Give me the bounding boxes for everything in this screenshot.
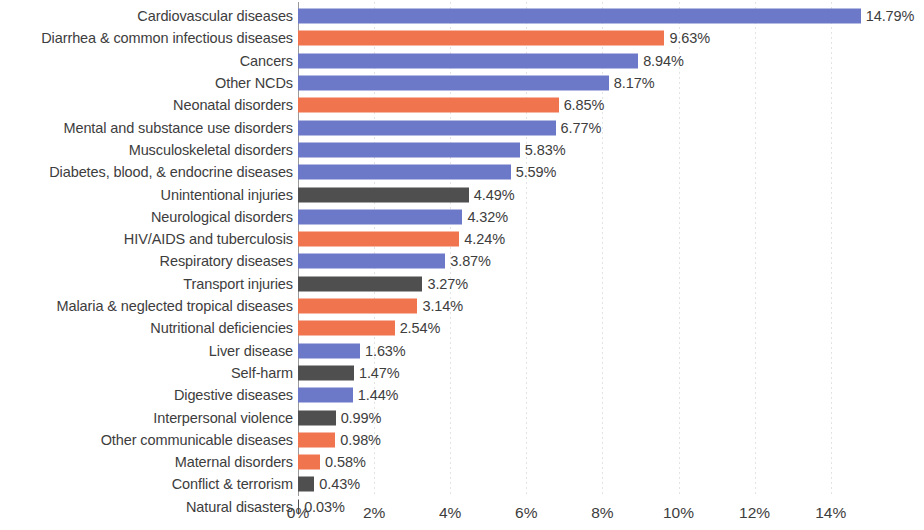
bar-row[interactable]: Diarrhea & common infectious diseases9.6…	[0, 27, 924, 49]
bar-rows: Cardiovascular diseases14.79%Diarrhea & …	[0, 0, 924, 500]
bar[interactable]	[298, 432, 335, 447]
bar[interactable]	[298, 477, 314, 492]
x-tick-label: 2%	[363, 504, 385, 522]
bar-value-label: 4.49%	[474, 187, 515, 203]
bar-row[interactable]: Conflict & terrorism0.43%	[0, 473, 924, 495]
category-label: Transport injuries	[183, 276, 293, 292]
x-tick-label: 14%	[815, 504, 846, 522]
bar[interactable]	[298, 299, 417, 314]
bar-row[interactable]: Cancers8.94%	[0, 50, 924, 72]
bar-value-label: 0.43%	[319, 476, 360, 492]
bar[interactable]	[298, 276, 422, 291]
bar-row[interactable]: Self-harm1.47%	[0, 362, 924, 384]
bar[interactable]	[298, 53, 638, 68]
category-label: Mental and substance use disorders	[63, 120, 293, 136]
bar-value-label: 8.94%	[643, 53, 684, 69]
bar[interactable]	[298, 98, 559, 113]
bar-value-label: 4.32%	[467, 209, 508, 225]
bar-value-label: 1.63%	[365, 343, 406, 359]
bar-row[interactable]: Unintentional injuries4.49%	[0, 183, 924, 205]
bar-value-label: 0.98%	[340, 432, 381, 448]
bar-value-label: 3.14%	[422, 298, 463, 314]
bar-row[interactable]: Maternal disorders0.58%	[0, 451, 924, 473]
bar[interactable]	[298, 410, 336, 425]
bar[interactable]	[298, 254, 445, 269]
bar-row[interactable]: Transport injuries3.27%	[0, 273, 924, 295]
category-label: Malaria & neglected tropical diseases	[57, 298, 294, 314]
category-label: Digestive diseases	[174, 387, 293, 403]
category-label: Diarrhea & common infectious diseases	[41, 30, 293, 46]
bar-row[interactable]: HIV/AIDS and tuberculosis4.24%	[0, 228, 924, 250]
bar-value-label: 6.77%	[561, 120, 602, 136]
category-label: Respiratory diseases	[160, 253, 293, 269]
bar-value-label: 8.17%	[614, 75, 655, 91]
category-label: Interpersonal violence	[153, 410, 293, 426]
bar[interactable]	[298, 365, 354, 380]
category-label: Conflict & terrorism	[172, 476, 293, 492]
bar[interactable]	[298, 187, 469, 202]
category-label: Neurological disorders	[151, 209, 293, 225]
bar[interactable]	[298, 209, 462, 224]
bar-row[interactable]: Liver disease1.63%	[0, 340, 924, 362]
plot-area: Cardiovascular diseases14.79%Diarrhea & …	[0, 0, 924, 500]
bar-value-label: 5.83%	[525, 142, 566, 158]
bar-value-label: 9.63%	[669, 30, 710, 46]
bar[interactable]	[298, 165, 511, 180]
bar-row[interactable]: Digestive diseases1.44%	[0, 384, 924, 406]
category-label: Self-harm	[231, 365, 293, 381]
x-tick-label: 4%	[439, 504, 461, 522]
bar-row[interactable]: Malaria & neglected tropical diseases3.1…	[0, 295, 924, 317]
bar[interactable]	[298, 9, 861, 24]
x-axis: 0%2%4%6%8%10%12%14%	[0, 500, 924, 530]
x-tick-label: 12%	[739, 504, 770, 522]
bar-row[interactable]: Musculoskeletal disorders5.83%	[0, 139, 924, 161]
bar[interactable]	[298, 120, 556, 135]
bar[interactable]	[298, 343, 360, 358]
bar[interactable]	[298, 142, 520, 157]
category-label: Neonatal disorders	[173, 97, 293, 113]
bar[interactable]	[298, 321, 395, 336]
bar-row[interactable]: Cardiovascular diseases14.79%	[0, 5, 924, 27]
bar-value-label: 3.27%	[427, 276, 468, 292]
bar[interactable]	[298, 455, 320, 470]
bar[interactable]	[298, 232, 459, 247]
bar-value-label: 5.59%	[516, 164, 557, 180]
bar-row[interactable]: Nutritional deficiencies2.54%	[0, 317, 924, 339]
x-tick-label: 0%	[287, 504, 309, 522]
bar-row[interactable]: Respiratory diseases3.87%	[0, 250, 924, 272]
bar-row[interactable]: Other NCDs8.17%	[0, 72, 924, 94]
bar[interactable]	[298, 388, 353, 403]
bar-value-label: 4.24%	[464, 231, 505, 247]
bar-row[interactable]: Neonatal disorders6.85%	[0, 94, 924, 116]
category-label: Diabetes, blood, & endocrine diseases	[49, 164, 293, 180]
x-tick-label: 10%	[663, 504, 694, 522]
bar-value-label: 0.99%	[341, 410, 382, 426]
x-tick-label: 8%	[591, 504, 613, 522]
category-label: Nutritional deficiencies	[150, 320, 293, 336]
bar-value-label: 14.79%	[866, 8, 915, 24]
bar-row[interactable]: Mental and substance use disorders6.77%	[0, 117, 924, 139]
bar-value-label: 1.44%	[358, 387, 399, 403]
bar-chart: Cardiovascular diseases14.79%Diarrhea & …	[0, 0, 924, 530]
bar-row[interactable]: Other communicable diseases0.98%	[0, 429, 924, 451]
bar-value-label: 3.87%	[450, 253, 491, 269]
bar-value-label: 2.54%	[400, 320, 441, 336]
bar-value-label: 0.58%	[325, 454, 366, 470]
bar-row[interactable]: Diabetes, blood, & endocrine diseases5.5…	[0, 161, 924, 183]
category-label: Unintentional injuries	[161, 187, 293, 203]
category-label: Musculoskeletal disorders	[129, 142, 293, 158]
bar-value-label: 1.47%	[359, 365, 400, 381]
category-label: Liver disease	[209, 343, 293, 359]
bar-row[interactable]: Interpersonal violence0.99%	[0, 406, 924, 428]
category-label: Other communicable diseases	[101, 432, 293, 448]
bar[interactable]	[298, 76, 609, 91]
bar-value-label: 6.85%	[564, 97, 605, 113]
category-label: Cancers	[240, 53, 293, 69]
category-label: Maternal disorders	[175, 454, 293, 470]
x-tick-label: 6%	[515, 504, 537, 522]
category-label: HIV/AIDS and tuberculosis	[124, 231, 293, 247]
category-label: Other NCDs	[215, 75, 293, 91]
bar-row[interactable]: Neurological disorders4.32%	[0, 206, 924, 228]
category-label: Cardiovascular diseases	[137, 8, 293, 24]
bar[interactable]	[298, 31, 664, 46]
